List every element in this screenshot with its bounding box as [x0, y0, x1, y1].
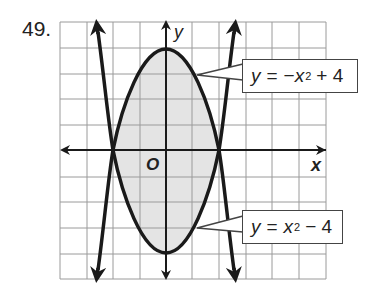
x-axis-label: x [310, 155, 322, 175]
callout-bottom-eq: = [267, 216, 278, 238]
callout-pointer-bottom [197, 216, 243, 232]
y-axis-label: y [172, 22, 184, 42]
callout-top-var: y [251, 65, 261, 87]
callout-bottom-base: x [284, 216, 294, 238]
callout-top-eq: = [267, 65, 278, 87]
callout-label-top: y = − x 2 + 4 [242, 59, 358, 93]
callout-bottom-rest: − 4 [305, 216, 332, 238]
callout-top-sign: − [284, 65, 295, 87]
callout-bottom-var: y [251, 216, 261, 238]
callout-pointer-top [197, 64, 243, 80]
callout-top-rest: + 4 [316, 65, 343, 87]
callout-top-base: x [295, 65, 305, 87]
origin-label: O [146, 155, 159, 174]
callout-top-exp: 2 [305, 70, 311, 82]
callout-label-bottom: y = x 2 − 4 [242, 210, 343, 244]
callout-bottom-exp: 2 [294, 221, 300, 233]
